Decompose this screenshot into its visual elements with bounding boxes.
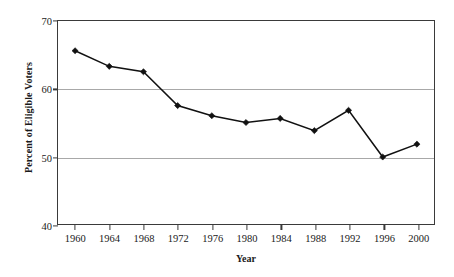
x-tick-mark-1992 <box>349 224 350 230</box>
x-axis-title: Year <box>57 253 435 264</box>
data-point-1980 <box>243 119 249 125</box>
x-tick-label-1984: 1984 <box>271 233 292 244</box>
x-tick-mark-1980 <box>246 224 247 230</box>
x-tick-label-1992: 1992 <box>340 233 361 244</box>
x-tick-label-1980: 1980 <box>237 233 258 244</box>
x-tick-label-1976: 1976 <box>202 233 223 244</box>
y-axis-title: Percent of Eligible Voters <box>23 23 34 213</box>
y-tick-label-60: 60 <box>42 84 53 95</box>
y-tick-mark-40 <box>53 225 58 226</box>
x-tick-mark-1976 <box>212 224 213 230</box>
x-tick-label-1996: 1996 <box>374 233 395 244</box>
data-point-1984 <box>277 115 283 121</box>
data-point-1960 <box>72 48 78 54</box>
x-tick-mark-2000 <box>418 224 419 230</box>
x-tick-label-2000: 2000 <box>408 233 429 244</box>
x-tick-label-1968: 1968 <box>133 233 154 244</box>
series-line-percent-of-eligible-voters <box>75 51 417 157</box>
x-tick-label-1964: 1964 <box>99 233 120 244</box>
x-tick-mark-1964 <box>109 224 110 230</box>
x-tick-mark-1960 <box>75 224 76 230</box>
x-tick-mark-1968 <box>143 224 144 230</box>
series-markers <box>72 48 420 160</box>
data-point-1988 <box>311 128 317 134</box>
x-tick-mark-1988 <box>315 224 316 230</box>
x-tick-mark-1984 <box>281 224 282 230</box>
data-point-1976 <box>209 113 215 119</box>
x-tick-mark-1996 <box>384 224 385 230</box>
x-tick-label-1972: 1972 <box>168 233 189 244</box>
x-tick-label-1960: 1960 <box>65 233 86 244</box>
y-tick-label-70: 70 <box>42 16 53 27</box>
data-point-1964 <box>106 63 112 69</box>
x-tick-label-1988: 1988 <box>305 233 326 244</box>
data-series-layer <box>58 21 434 224</box>
y-tick-label-50: 50 <box>42 152 53 163</box>
voter-turnout-line-chart: Percent of Eligible Voters 40506070 1960… <box>0 0 454 277</box>
plot-area: 40506070 1960196419681972197619801984198… <box>57 20 435 225</box>
x-tick-mark-1972 <box>178 224 179 230</box>
data-point-2000 <box>414 141 420 147</box>
y-tick-label-40: 40 <box>42 221 53 232</box>
